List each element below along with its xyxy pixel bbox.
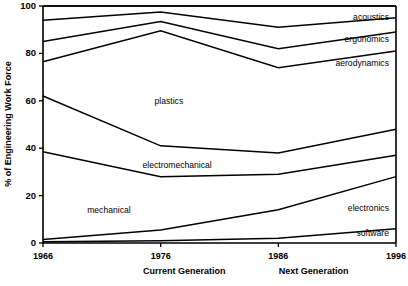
band-label-plastics: plastics — [155, 96, 184, 106]
chart-figure: 020406080100 1966197619861996 softwareel… — [0, 0, 408, 286]
x-tick-label-1976: 1976 — [151, 251, 171, 261]
band-label-aerodynamics: aerodynamics — [335, 58, 389, 68]
band-label-electronics: electronics — [348, 203, 389, 213]
annotation-current-generation: Current Generation — [143, 266, 226, 276]
y-tick-label-100: 100 — [20, 0, 36, 11]
annotation-next-generation: Next Generation — [279, 266, 349, 276]
band-label-acoustics: acoustics — [353, 12, 389, 22]
x-tick-label-1996: 1996 — [386, 251, 406, 261]
y-axis-title: % of Engineering Work Force — [3, 61, 13, 186]
band-label-software: software — [356, 228, 389, 238]
y-tick-label-60: 60 — [25, 95, 36, 106]
y-tick-label-80: 80 — [25, 47, 36, 58]
y-tick-label-0: 0 — [31, 237, 36, 248]
generation-annotations: Current GenerationNext Generation — [143, 266, 348, 276]
band-label-electromechanical: electromechanical — [143, 160, 212, 170]
band-label-mechanical: mechanical — [87, 205, 131, 215]
x-axis-ticks: 1966197619861996 — [33, 243, 406, 261]
area-chart-svg: 020406080100 1966197619861996 softwareel… — [0, 0, 408, 286]
y-axis-ticks: 020406080100 — [20, 0, 43, 248]
x-tick-label-1986: 1986 — [268, 251, 288, 261]
y-tick-label-20: 20 — [25, 190, 36, 201]
band-label-ergonomics: ergonomics — [345, 34, 389, 44]
x-tick-label-1966: 1966 — [33, 251, 53, 261]
y-tick-label-40: 40 — [25, 142, 36, 153]
